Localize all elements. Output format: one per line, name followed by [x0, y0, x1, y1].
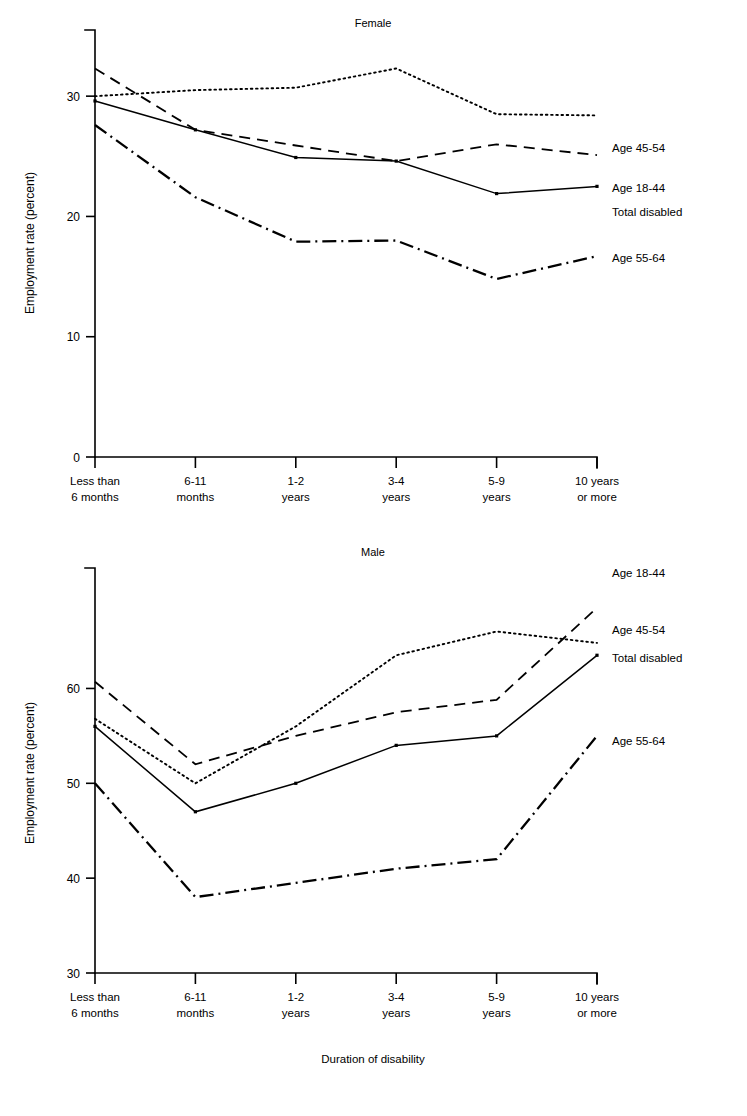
male-series-label-total-disabled: Total disabled	[612, 652, 682, 664]
female-data-point-marker	[395, 160, 398, 163]
female-x-tick-label: months	[177, 491, 215, 503]
male-series-label-age-18-44: Age 18-44	[612, 567, 666, 579]
male-plot-area: Male30405060Employment rate (percent)Les…	[23, 546, 682, 1065]
female-series-label-total-disabled: Total disabled	[612, 206, 682, 218]
male-y-tick-label: 30	[67, 967, 81, 981]
female-series-label-age-18-44: Age 18-44	[612, 182, 666, 194]
male-series-total-disabled	[95, 655, 597, 812]
male-x-tick-label: 3-4	[388, 991, 405, 1003]
male-x-tick-label: 10 years	[575, 991, 619, 1003]
male-y-axis-title: Employment rate (percent)	[23, 702, 37, 844]
male-x-tick-label: months	[177, 1007, 215, 1019]
male-x-tick-label: Less than	[70, 991, 120, 1003]
male-x-tick-label: years	[282, 1007, 310, 1019]
female-x-tick-label: years	[483, 491, 511, 503]
female-x-tick-label: 6-11	[184, 475, 206, 487]
male-x-tick-label: 6 months	[71, 1007, 119, 1019]
male-chart-svg: Male30405060Employment rate (percent)Les…	[0, 530, 747, 1116]
female-data-point-marker	[595, 185, 598, 188]
male-y-tick-label: 40	[67, 872, 81, 886]
male-data-point-marker	[294, 782, 297, 785]
female-x-tick-label: or more	[577, 491, 617, 503]
female-plot-area: Female0102030Employment rate (percent)Le…	[23, 17, 682, 503]
female-y-axis-title: Employment rate (percent)	[23, 172, 37, 314]
male-data-point-marker	[495, 734, 498, 737]
female-x-tick-label: 10 years	[575, 475, 619, 487]
male-x-tick-label: or more	[577, 1007, 617, 1019]
chart-panel-male: Male30405060Employment rate (percent)Les…	[0, 530, 747, 1116]
female-x-axis	[95, 457, 597, 468]
male-x-tick-label: 5-9	[488, 991, 505, 1003]
male-x-axis-title: Duration of disability	[321, 1053, 425, 1065]
female-data-point-marker	[194, 128, 197, 131]
female-data-point-marker	[93, 99, 96, 102]
female-x-tick-label: 3-4	[388, 475, 405, 487]
male-data-point-marker	[93, 725, 96, 728]
male-data-point-marker	[395, 744, 398, 747]
chart-panel-female: Female0102030Employment rate (percent)Le…	[0, 0, 747, 530]
male-data-point-marker	[194, 810, 197, 813]
male-x-tick-label: years	[483, 1007, 511, 1019]
female-series-label-age-45-54: Age 45-54	[612, 142, 666, 154]
female-x-tick-label: Less than	[70, 475, 120, 487]
male-series-label-age-45-54: Age 45-54	[612, 624, 666, 636]
male-x-tick-label: 6-11	[184, 991, 206, 1003]
male-data-point-marker	[595, 654, 598, 657]
female-y-tick-label: 20	[67, 210, 81, 224]
female-series-age-55-64	[95, 125, 597, 279]
female-data-point-marker	[294, 156, 297, 159]
male-x-tick-label: 1-2	[287, 991, 304, 1003]
female-x-tick-label: 5-9	[488, 475, 505, 487]
female-y-tick-label: 0	[73, 451, 80, 465]
female-panel-title: Female	[355, 17, 392, 29]
male-series-age-18-44	[95, 608, 597, 765]
male-y-tick-label: 50	[67, 777, 81, 791]
female-series-label-age-55-64: Age 55-64	[612, 252, 666, 264]
female-data-point-marker	[495, 192, 498, 195]
male-panel-title: Male	[361, 546, 385, 558]
female-series-age-45-54	[95, 69, 597, 116]
male-series-label-age-55-64: Age 55-64	[612, 735, 666, 747]
female-x-tick-label: years	[382, 491, 410, 503]
male-y-tick-label: 60	[67, 682, 81, 696]
male-x-tick-label: years	[382, 1007, 410, 1019]
male-x-axis	[95, 973, 597, 984]
female-y-axis	[85, 30, 95, 457]
female-x-tick-label: 1-2	[287, 475, 304, 487]
female-y-tick-label: 10	[67, 330, 81, 344]
female-y-tick-label: 30	[67, 90, 81, 104]
female-chart-svg: Female0102030Employment rate (percent)Le…	[0, 0, 747, 530]
male-series-age-45-54	[95, 632, 597, 784]
female-x-tick-label: 6 months	[71, 491, 119, 503]
male-y-axis	[85, 568, 95, 973]
female-x-tick-label: years	[282, 491, 310, 503]
male-series-age-55-64	[95, 736, 597, 897]
